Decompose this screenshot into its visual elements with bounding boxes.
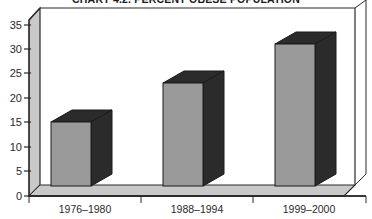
chart-plot-area (0, 0, 372, 219)
y-tick-label: 35 (10, 20, 22, 31)
bar-front-face (51, 122, 91, 186)
y-tick-label: 30 (10, 44, 22, 55)
bar-1988-1994[interactable] (163, 71, 224, 186)
x-tick-label: 1999–2000 (283, 204, 336, 215)
plot-floor (29, 185, 355, 196)
y-axis-labels: 35 30 25 20 15 10 5 0 (0, 0, 28, 219)
bar-1976-1980[interactable] (51, 110, 112, 186)
plot-frame-top-depth (355, 0, 366, 8)
y-tick-label: 10 (10, 142, 22, 153)
x-tick-label: 1988–1994 (171, 204, 224, 215)
bar-front-face (163, 83, 203, 186)
y-tick-label: 25 (10, 68, 22, 79)
bar-side-face (91, 110, 112, 186)
y-tick-label: 5 (16, 166, 22, 177)
bar-1999-2000[interactable] (275, 32, 336, 186)
x-axis-labels: 1976–1980 1988–1994 1999–2000 (0, 200, 372, 219)
bar-side-face (203, 71, 224, 186)
y-axis-wall (29, 8, 40, 196)
y-tick-label: 15 (10, 117, 22, 128)
x-tick-label: 1976–1980 (59, 204, 112, 215)
bar-front-face (275, 44, 315, 186)
chart-figure: CHART 4.2. PERCENT OBESE POPULATION (0, 0, 372, 219)
bar-side-face (315, 32, 336, 186)
y-tick-label: 20 (10, 93, 22, 104)
